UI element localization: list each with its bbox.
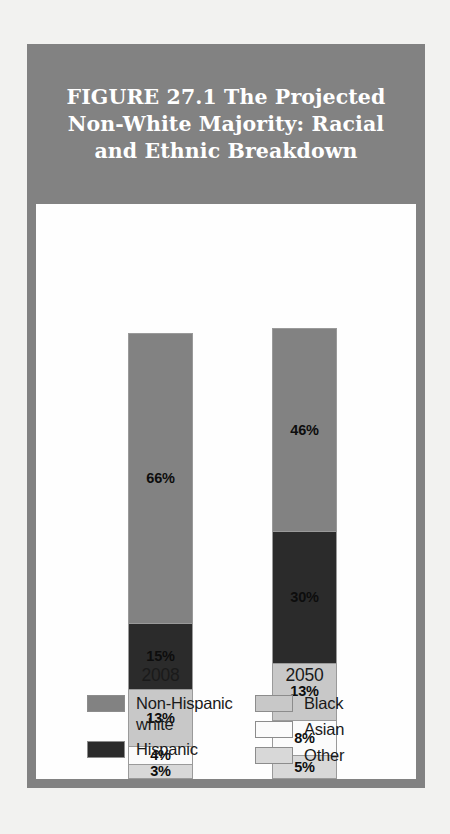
chart-legend: Non-Hispanic whiteHispanic BlackAsianOth… [36, 693, 416, 773]
x-axis-tick-2050: 2050 [272, 665, 337, 686]
legend-item-non-hispanic-white: Non-Hispanic white [87, 693, 233, 735]
figure-title: FIGURE 27.1 The Projected Non-White Majo… [55, 84, 398, 165]
bar-segment-2008-non-hispanic-white: 66% [129, 334, 192, 624]
legend-swatch-non-hispanic-white [87, 695, 125, 712]
legend-label-other: Other [304, 745, 344, 766]
legend-item-asian: Asian [255, 719, 344, 740]
legend-item-hispanic: Hispanic [87, 739, 233, 760]
bar-segment-2050-hispanic: 30% [273, 532, 336, 664]
bar-segment-value-label: 15% [146, 649, 174, 664]
legend-item-black: Black [255, 693, 344, 714]
legend-swatch-black [255, 695, 293, 712]
legend-label-hispanic: Hispanic [136, 739, 198, 760]
figure-title-band: FIGURE 27.1 The Projected Non-White Majo… [27, 44, 425, 204]
bar-segment-value-label: 30% [290, 590, 318, 605]
legend-item-other: Other [255, 745, 344, 766]
legend-column-right: BlackAsianOther [255, 693, 344, 771]
legend-swatch-asian [255, 721, 293, 738]
legend-label-non-hispanic-white: Non-Hispanic white [136, 693, 233, 735]
legend-column-left: Non-Hispanic whiteHispanic [87, 693, 233, 764]
legend-swatch-hispanic [87, 741, 125, 758]
bar-segment-value-label: 66% [146, 471, 174, 486]
x-axis-tick-2008: 2008 [128, 665, 193, 686]
bar-segment-2050-non-hispanic-white: 46% [273, 329, 336, 531]
legend-label-black: Black [304, 693, 343, 714]
legend-swatch-other [255, 747, 293, 764]
chart-plot-area: 66%15%13%4%3% 46%30%13%8%5% 2008 2050 No… [36, 204, 416, 779]
legend-label-asian: Asian [304, 719, 344, 740]
bar-segment-value-label: 46% [290, 423, 318, 438]
